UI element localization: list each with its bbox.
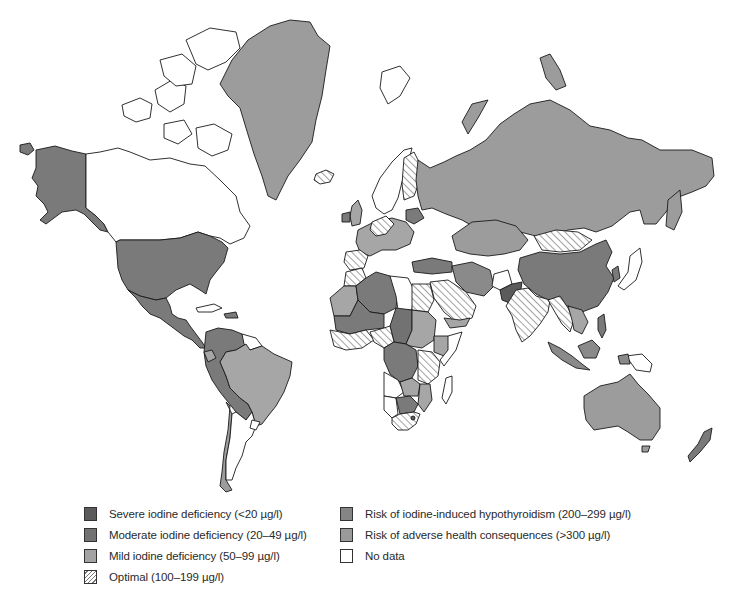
legend-label: No data bbox=[365, 550, 405, 562]
region-madagascar bbox=[442, 376, 452, 404]
hypothyroidism-swatch bbox=[340, 507, 353, 521]
region-iberia bbox=[344, 250, 368, 270]
legend-item-moderate: Moderate iodine deficiency (20–49 µg/l) bbox=[84, 527, 307, 543]
legend-label: Optimal (100–199 µg/l) bbox=[109, 571, 224, 583]
legend-item-severe: Severe iodine deficiency (<20 µg/l) bbox=[84, 506, 283, 522]
region-alaska-island bbox=[20, 143, 34, 155]
legend-label: Risk of iodine-induced hypothyroidism (2… bbox=[365, 508, 631, 520]
legend-item-no-data: No data bbox=[340, 548, 405, 564]
region-belarus bbox=[406, 208, 424, 224]
legend-item-mild: Mild iodine deficiency (50–99 µg/l) bbox=[84, 548, 280, 564]
region-kenya-tanzania bbox=[418, 350, 440, 384]
optimal-hatched-swatch bbox=[84, 570, 97, 584]
region-arctic-island bbox=[122, 98, 152, 122]
legend-label: Risk of adverse health consequences (>30… bbox=[365, 529, 610, 541]
region-mexico bbox=[128, 290, 206, 348]
region-severnaya-zemlya bbox=[540, 54, 566, 90]
legend-item-adverse: Risk of adverse health consequences (>30… bbox=[340, 527, 610, 543]
region-arctic-island bbox=[160, 54, 196, 86]
severe-swatch bbox=[84, 507, 97, 521]
legend-label: Moderate iodine deficiency (20–49 µg/l) bbox=[109, 529, 307, 541]
region-papua bbox=[618, 354, 630, 364]
region-mozambique bbox=[418, 384, 432, 412]
legend-item-optimal: Optimal (100–199 µg/l) bbox=[84, 569, 224, 585]
region-tasmania bbox=[642, 446, 650, 452]
region-cuba bbox=[196, 304, 222, 312]
region-botswana bbox=[396, 396, 418, 414]
region-iceland bbox=[314, 170, 334, 184]
region-ireland bbox=[342, 212, 350, 222]
region-baffin-island bbox=[196, 124, 232, 156]
region-novaya-zemlya bbox=[462, 100, 488, 134]
region-lesotho bbox=[411, 416, 415, 420]
region-hispaniola bbox=[224, 312, 238, 318]
legend-label: Severe iodine deficiency (<20 µg/l) bbox=[109, 508, 283, 520]
region-arctic-island bbox=[164, 120, 192, 144]
region-uk bbox=[350, 200, 362, 226]
region-canada bbox=[86, 148, 250, 244]
region-yemen bbox=[444, 318, 470, 328]
region-egypt bbox=[412, 284, 434, 312]
mild-swatch bbox=[84, 549, 97, 563]
region-korea bbox=[612, 266, 620, 282]
legend-label: Mild iodine deficiency (50–99 µg/l) bbox=[109, 550, 280, 562]
region-usa bbox=[116, 232, 228, 300]
region-svalbard bbox=[380, 66, 410, 104]
region-borneo bbox=[578, 340, 600, 358]
moderate-swatch bbox=[84, 528, 97, 542]
region-turkey bbox=[412, 258, 452, 274]
region-zambia bbox=[400, 378, 420, 396]
legend: Severe iodine deficiency (<20 µg/l) Mode… bbox=[0, 500, 734, 589]
region-uruguay bbox=[250, 420, 260, 430]
legend-item-hypothyroidism: Risk of iodine-induced hypothyroidism (2… bbox=[340, 506, 631, 522]
region-new-zealand bbox=[688, 428, 712, 462]
region-philippines bbox=[598, 314, 606, 338]
region-mongolia bbox=[534, 230, 592, 252]
world-map bbox=[0, 0, 734, 500]
region-australia bbox=[584, 374, 660, 440]
adverse-swatch bbox=[340, 528, 353, 542]
no-data-swatch bbox=[340, 549, 353, 563]
region-japan bbox=[618, 248, 642, 290]
